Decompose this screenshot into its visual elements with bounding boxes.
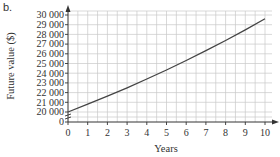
x-tick-label: 1	[85, 127, 90, 138]
y-tick-label: 29 000	[37, 19, 65, 30]
x-tick-label: 7	[203, 127, 208, 138]
y-tick-label: 20 000	[37, 106, 65, 117]
y-tick-label: 22 000	[37, 87, 65, 98]
y-axis-label: Future value ($)	[5, 32, 17, 100]
x-axis-label: Years	[154, 143, 177, 154]
y-tick-label: 25 000	[37, 58, 65, 69]
future-value-chart: 020 00021 00022 00023 00024 00025 00026 …	[0, 0, 280, 157]
y-tick-label: 26 000	[37, 48, 65, 59]
x-tick-label: 5	[164, 127, 169, 138]
y-axis-arrow-icon	[66, 5, 71, 12]
axes	[65, 5, 279, 125]
x-tick-label: 9	[243, 127, 248, 138]
y-tick-label: 27 000	[37, 38, 65, 49]
y-tick-label: 30 000	[37, 9, 65, 20]
y-tick-label: 0	[59, 116, 64, 127]
x-axis-ticks: 012345678910	[66, 122, 271, 138]
y-tick-label: 28 000	[37, 29, 65, 40]
x-tick-label: 6	[184, 127, 189, 138]
x-axis-arrow-icon	[272, 120, 279, 125]
x-tick-label: 3	[125, 127, 130, 138]
x-tick-label: 8	[223, 127, 228, 138]
grid	[68, 11, 272, 122]
x-tick-label: 4	[144, 127, 149, 138]
y-tick-label: 23 000	[37, 77, 65, 88]
y-tick-label: 21 000	[37, 97, 65, 108]
x-tick-label: 10	[260, 127, 270, 138]
y-tick-label: 24 000	[37, 68, 65, 79]
x-tick-label: 0	[66, 127, 71, 138]
y-axis-ticks: 020 00021 00022 00023 00024 00025 00026 …	[37, 9, 69, 127]
x-tick-label: 2	[105, 127, 110, 138]
